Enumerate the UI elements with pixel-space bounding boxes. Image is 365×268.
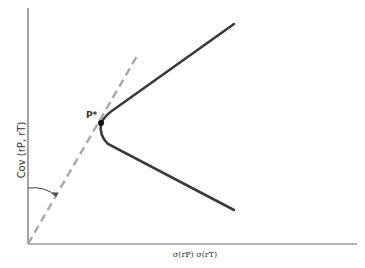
p-star-label: P* <box>86 110 97 120</box>
angle-arc <box>28 188 56 196</box>
upper-branch-curve <box>101 24 234 123</box>
diagram-canvas <box>0 0 365 268</box>
lower-branch-curve <box>101 123 234 210</box>
p-star-point <box>98 120 104 126</box>
y-axis-label: Cov (rP, rT) <box>16 105 27 195</box>
x-axis-label: σ(rP) σ(rT) <box>160 250 230 259</box>
